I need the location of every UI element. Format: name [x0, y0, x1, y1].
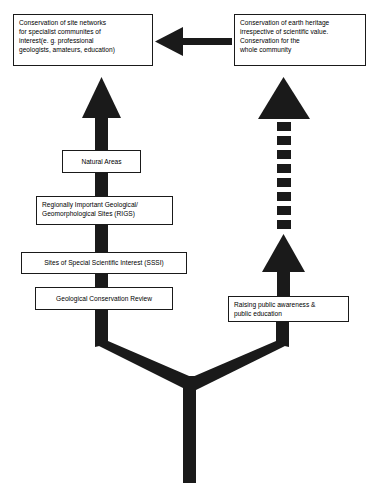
node-earth-heritage[interactable]: Conservation of earth heritage irrespect…	[234, 14, 366, 66]
node-specialist-networks-label: Conservation of site networks for specia…	[19, 18, 147, 54]
earth-heritage-to-specialist-arrow	[155, 27, 232, 56]
node-public-awareness-label: Raising public awareness & public educat…	[234, 300, 343, 318]
node-sssi[interactable]: Sites of Special Scientific Interest (SS…	[21, 252, 187, 274]
node-earth-heritage-label: Conservation of earth heritage irrespect…	[240, 18, 360, 54]
geoconservation-diagram: Conservation of site networks for specia…	[0, 0, 374, 483]
dashed-shaft	[277, 122, 291, 229]
node-public-awareness[interactable]: Raising public awareness & public educat…	[228, 296, 349, 322]
node-natural-areas-label: Natural Areas	[81, 157, 121, 166]
node-natural-areas[interactable]: Natural Areas	[62, 150, 141, 173]
earth-heritage-column-up-arrow	[258, 77, 310, 229]
connector-layer	[0, 0, 374, 483]
node-gcr-label: Geological Conservation Review	[56, 294, 152, 303]
node-specialist-networks[interactable]: Conservation of site networks for specia…	[13, 14, 153, 66]
node-sssi-label: Sites of Special Scientific Interest (SS…	[44, 258, 164, 267]
y-junction-trunk	[95, 305, 289, 483]
node-rigs[interactable]: Regionally Important Geological/ Geomorp…	[36, 196, 173, 225]
node-rigs-label: Regionally Important Geological/ Geomorp…	[42, 200, 167, 218]
node-gcr[interactable]: Geological Conservation Review	[35, 287, 173, 310]
